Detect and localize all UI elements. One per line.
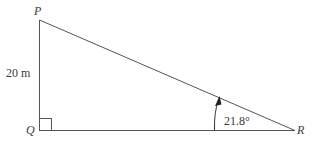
vertex-label-p: P — [33, 4, 42, 18]
triangle-diagram: P Q R 20 m 21.8° — [0, 0, 312, 141]
side-length-label: 20 m — [6, 66, 31, 80]
side-pr — [40, 20, 296, 131]
vertex-label-r: R — [296, 123, 305, 137]
right-angle-marker — [40, 119, 52, 131]
angle-label: 21.8° — [224, 114, 250, 128]
vertex-label-q: Q — [26, 123, 35, 137]
